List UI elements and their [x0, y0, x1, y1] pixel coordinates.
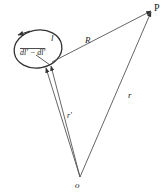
vector-r-prime-label: r′	[67, 111, 72, 120]
vector-R	[52, 11, 151, 62]
vector-R-label: R	[84, 35, 91, 45]
vector-r-prime-a	[46, 68, 80, 177]
point-p-label: P	[154, 2, 160, 13]
loop-label: l	[51, 33, 54, 43]
vector-r	[80, 12, 151, 177]
vector-r-label: r	[128, 90, 132, 100]
origin-label: o	[75, 180, 80, 190]
vector-r-prime-b	[51, 66, 80, 177]
vector-diagram: P o R r r′ l dl′ − dl′	[0, 0, 165, 193]
loop-element-label: dl′ − dl′	[20, 48, 46, 57]
